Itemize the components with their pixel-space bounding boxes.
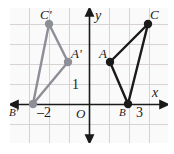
y-axis-arrow-down [86, 135, 93, 143]
origin-label: O [76, 107, 85, 120]
label-a: A [99, 47, 107, 60]
label-c: C [150, 8, 159, 21]
vertex-b-prime [29, 100, 37, 108]
x-tick-label-neg-two: –2 [37, 106, 51, 120]
y-axis-arrow-up [86, 8, 93, 16]
vertex-a [106, 58, 114, 66]
label-c-prime: C' [40, 8, 51, 21]
plot-area [10, 8, 168, 143]
graph-svg [10, 8, 168, 143]
x-axis-label: x [152, 86, 158, 100]
label-b: B [119, 107, 126, 118]
y-tick-label-one: 1 [72, 78, 79, 92]
label-a-prime: A' [71, 47, 82, 60]
y-axis-label: y [95, 9, 101, 23]
x-axis-arrow-right [160, 101, 168, 108]
label-b-prime: B' [9, 107, 18, 118]
coordinate-plane-figure: C' A' B' C A B y x O –2 3 1 [0, 0, 174, 154]
x-tick-label-three: 3 [136, 106, 143, 120]
